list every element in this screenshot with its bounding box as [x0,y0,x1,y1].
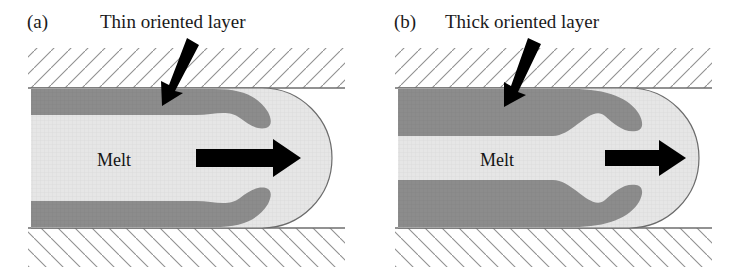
callout-label-b: Thick oriented layer [445,11,600,32]
panel-a: (a) Thin oriented layer Melt [0,0,368,267]
panel-tag-b: (b) [394,11,416,33]
callout-label-a: Thin oriented layer [100,11,246,32]
mould-wall-bottom [28,228,345,267]
melt-label-b: Melt [480,150,514,170]
figure-container: (a) Thin oriented layer Melt [0,0,735,267]
mould-wall-top [395,48,712,88]
panel-tag-a: (a) [27,11,48,33]
mould-wall-bottom [395,228,712,267]
melt-label-a: Melt [97,150,131,170]
panel-b: (b) Thick oriented layer Melt [367,0,735,267]
